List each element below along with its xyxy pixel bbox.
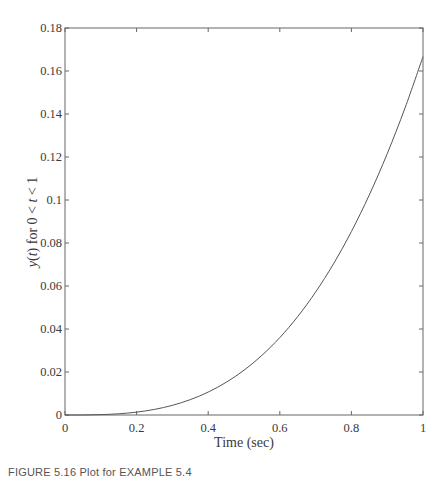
data-series	[65, 57, 423, 415]
x-axis-ticks: 00.20.40.60.81	[62, 28, 426, 435]
x-tick-label: 0.2	[129, 421, 145, 435]
x-tick-label: 0.6	[272, 421, 288, 435]
series-line	[65, 57, 423, 415]
y-tick-label: 0.08	[40, 236, 62, 250]
y-tick-label: 0.02	[40, 365, 62, 379]
y-tick-label: 0.04	[40, 322, 63, 336]
x-tick-label: 0	[62, 421, 68, 435]
y-axis-label: y(t) for 0 < t < 1	[25, 177, 41, 269]
y-tick-label: 0.06	[40, 279, 62, 293]
x-tick-label: 0.8	[344, 421, 360, 435]
y-tick-label: 0.16	[40, 64, 62, 78]
axes-box	[65, 28, 423, 415]
y-tick-label: 0.18	[40, 21, 62, 35]
y-tick-label: 0.1	[46, 193, 62, 207]
x-tick-label: 0.4	[200, 421, 216, 435]
y-tick-label: 0.12	[40, 150, 62, 164]
figure-caption: FIGURE 5.16 Plot for EXAMPLE 5.4	[8, 466, 192, 478]
y-tick-label: 0.14	[40, 107, 63, 121]
x-tick-label: 1	[420, 421, 426, 435]
y-axis-ticks: 00.020.040.060.080.10.120.140.160.18	[40, 21, 423, 422]
plot-frame	[65, 28, 423, 415]
y-tick-label: 0	[56, 408, 62, 422]
x-axis-label: Time (sec)	[214, 435, 274, 451]
